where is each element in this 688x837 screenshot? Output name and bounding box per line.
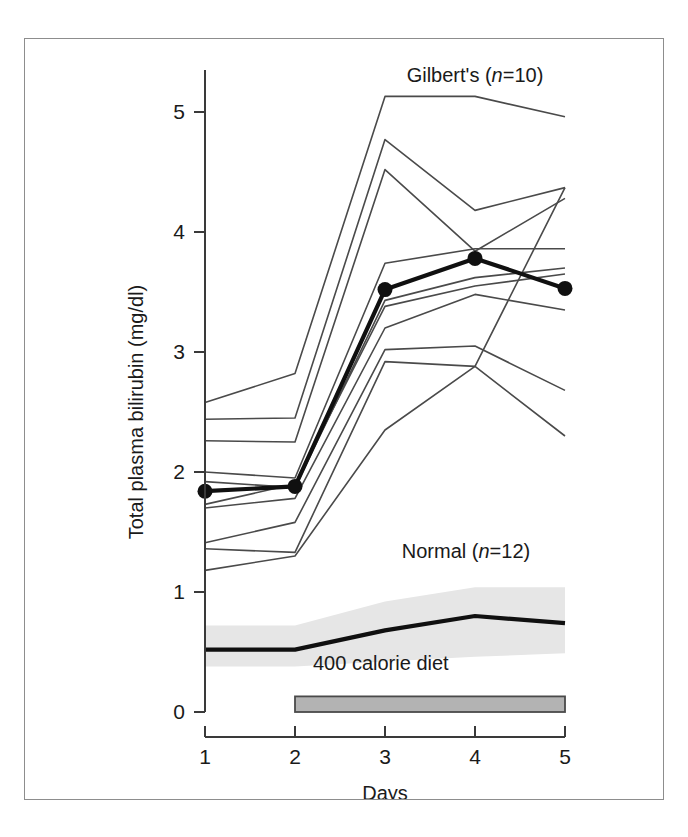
gilberts-group-label: Gilbert's (n=10) bbox=[407, 64, 544, 86]
x-tick-label: 5 bbox=[559, 745, 571, 768]
x-tick-label: 3 bbox=[379, 745, 391, 768]
y-axis: 012345 bbox=[173, 70, 205, 723]
gilberts-subject-6 bbox=[205, 274, 565, 504]
figure-page: 400 calorie diet 012345 12345 Total plas… bbox=[0, 0, 688, 837]
y-tick-label: 3 bbox=[173, 340, 185, 363]
y-tick-label: 4 bbox=[173, 220, 185, 243]
x-axis-ticks: 12345 bbox=[199, 726, 571, 768]
italic-n: n bbox=[478, 540, 489, 562]
gilberts-subject-10 bbox=[205, 188, 565, 571]
x-tick-label: 1 bbox=[199, 745, 211, 768]
gilberts-mean-group bbox=[198, 251, 573, 499]
y-axis-title: Total plasma bilirubin (mg/dl) bbox=[125, 285, 147, 540]
gilberts-subject-9 bbox=[205, 362, 565, 553]
x-tick-label: 2 bbox=[289, 745, 301, 768]
y-tick-label: 5 bbox=[173, 100, 185, 123]
italic-n: n bbox=[492, 64, 503, 86]
y-axis-ticks: 012345 bbox=[173, 100, 205, 723]
x-axis-title: Days bbox=[362, 782, 408, 799]
diet-bar bbox=[295, 696, 565, 712]
gilberts-mean-marker bbox=[378, 282, 393, 297]
y-tick-label: 2 bbox=[173, 460, 185, 483]
gilberts-mean-marker bbox=[468, 251, 483, 266]
y-tick-label: 0 bbox=[173, 700, 185, 723]
diet-bar-label: 400 calorie diet bbox=[313, 652, 449, 674]
gilberts-subject-8 bbox=[205, 346, 565, 543]
gilberts-individual-lines bbox=[205, 96, 565, 570]
x-axis: 12345 bbox=[199, 726, 571, 768]
x-tick-label: 4 bbox=[469, 745, 481, 768]
y-tick-label: 1 bbox=[173, 580, 185, 603]
gilberts-subject-2 bbox=[205, 140, 565, 420]
gilberts-mean-markers bbox=[198, 251, 573, 499]
bilirubin-line-chart: 400 calorie diet 012345 12345 Total plas… bbox=[25, 39, 663, 799]
gilberts-mean-marker bbox=[288, 479, 303, 494]
gilberts-mean-marker bbox=[558, 281, 573, 296]
diet-bar-group: 400 calorie diet bbox=[295, 652, 565, 712]
normal-group-label: Normal (n=12) bbox=[402, 540, 530, 562]
figure-frame: 400 calorie diet 012345 12345 Total plas… bbox=[24, 38, 664, 800]
